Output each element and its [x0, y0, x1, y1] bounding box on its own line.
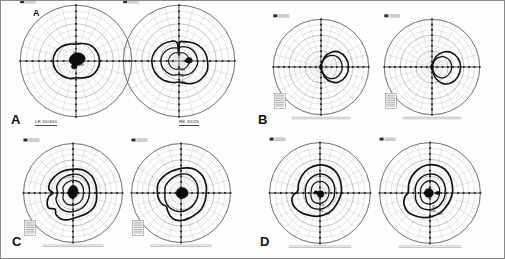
isopter-label: I4e: [319, 209, 324, 213]
isopter-label: V4e: [78, 63, 84, 67]
axis-tick-20: [431, 56, 433, 58]
axis-tick-30: [320, 82, 322, 84]
meridian-240: [297, 69, 320, 108]
axis-tick-30: [431, 82, 433, 84]
axis-tick-30: [72, 176, 74, 178]
meridian-240: [408, 69, 431, 108]
axis-tick-60: [399, 66, 401, 68]
chart-header-mark: [380, 138, 384, 141]
axis-tick-70: [142, 192, 144, 194]
meridian-300: [433, 69, 456, 108]
axis-tick-50: [209, 60, 211, 62]
axis-tick-40: [178, 35, 180, 37]
meridian-30: [75, 168, 116, 192]
axis-tick-60: [178, 97, 180, 99]
visual-field-plot-left: [23, 139, 124, 247]
meridian-135: [140, 22, 178, 60]
axis-tick-70: [320, 103, 322, 105]
meridian-165: [22, 47, 74, 61]
axis-tick-50: [44, 60, 46, 62]
axis-tick-40: [320, 87, 322, 89]
panel-a-inline-letter: A: [33, 9, 40, 18]
meridian-75: [77, 7, 91, 59]
meridian-300: [77, 63, 104, 109]
visual-field-plot-right: I2eI4eV4e: [379, 138, 482, 248]
meridian-60: [182, 150, 206, 191]
axis-tick-80: [278, 66, 280, 68]
chart-header-mark: [123, 1, 127, 3]
meridian-195: [275, 68, 319, 80]
axis-tick-60: [75, 97, 77, 99]
axis-tick-30: [336, 66, 338, 68]
meridian-45: [323, 33, 355, 65]
axis-tick-40: [72, 214, 74, 216]
axis-tick-60: [320, 34, 322, 36]
axis-tick-60: [319, 159, 321, 161]
axis-tick-20: [308, 192, 310, 194]
axis-tick-60: [286, 192, 288, 194]
axis-tick-70: [72, 154, 74, 156]
axis-tick-60: [431, 98, 433, 100]
meridian-135: [398, 33, 430, 65]
meridian-150: [28, 33, 74, 60]
axis-tick-80: [224, 192, 226, 194]
axis-tick-30: [429, 175, 431, 177]
axis-tick-40: [431, 45, 433, 47]
scotoma-fixation-marker: [430, 64, 433, 69]
meridian-165: [386, 55, 430, 67]
axis-tick-10: [178, 66, 180, 68]
axis-tick-20: [331, 66, 333, 68]
meridian-195: [386, 68, 430, 80]
panel-b-letter: B: [258, 113, 267, 126]
axis-tick-30: [75, 42, 77, 44]
axis-tick-70: [119, 60, 121, 62]
isopter-label: V4e: [179, 80, 185, 84]
axis-tick-70: [280, 192, 282, 194]
panel-d-charts: I2eI4eV4eI2eI4eV4e: [254, 131, 505, 259]
scotoma-blind-spot: [186, 58, 193, 64]
axis-tick-20: [61, 192, 63, 194]
axis-tick-80: [136, 192, 138, 194]
axis-tick-60: [213, 192, 215, 194]
meridian-210: [131, 62, 177, 89]
meridian-150: [131, 33, 177, 60]
meridian-120: [48, 13, 75, 59]
axis-tick-20: [320, 56, 322, 58]
axis-tick-60: [72, 159, 74, 161]
meridian-105: [309, 21, 321, 65]
axis-tick-20: [75, 48, 77, 50]
axis-tick-80: [384, 192, 386, 194]
meridian-120: [297, 26, 320, 65]
axis-tick-20: [180, 181, 182, 183]
axis-tick-30: [336, 192, 338, 194]
axis-tick-80: [26, 60, 28, 62]
axis-tick-60: [431, 34, 433, 36]
meridian-255: [62, 63, 76, 115]
axis-tick-70: [394, 66, 396, 68]
axis-tick-70: [75, 104, 77, 106]
axis-tick-20: [330, 192, 332, 194]
isopter-label: V4e: [437, 212, 443, 216]
meridian-210: [391, 68, 430, 91]
axis-tick-50: [153, 192, 155, 194]
meridian-30: [322, 168, 364, 192]
axis-tick-10: [315, 66, 317, 68]
panel-a-letter: A: [11, 113, 20, 126]
axis-tick-50: [72, 220, 74, 222]
axis-tick-40: [319, 170, 321, 172]
isopter-label: V4e: [324, 212, 330, 216]
visual-field-plot-left: I4eV4e: [19, 1, 132, 118]
axis-tick-70: [34, 192, 36, 194]
meridian-60: [77, 13, 104, 59]
axis-tick-30: [180, 176, 182, 178]
meridian-255: [309, 69, 321, 113]
axis-tick-80: [319, 237, 321, 239]
axis-tick-50: [208, 192, 210, 194]
axis-tick-40: [320, 45, 322, 47]
axis-tick-40: [203, 60, 205, 62]
axis-tick-70: [178, 17, 180, 19]
meridian-30: [183, 168, 224, 192]
axis-tick-80: [274, 192, 276, 194]
panel-d: I2eI4eV4eI2eI4eV4e D: [254, 131, 505, 259]
panel-b-charts: [254, 1, 505, 131]
